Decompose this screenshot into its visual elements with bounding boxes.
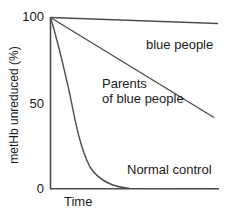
y-axis-label: metHb unreduced (%) [8,20,20,190]
x-axis-label: Time [64,195,92,208]
series-label-parents-line1: Parents [102,76,184,91]
series-label-blue-people: blue people [146,37,213,52]
series-line-blue-people [51,18,219,24]
series-label-normal-control: Normal control [127,162,212,177]
chart-figure: 100 50 0 metHb unreduced (%) Time blue p… [0,0,225,216]
series-label-parents-line2: of blue people [102,91,184,106]
series-label-parents-of-blue-people: Parents of blue people [102,76,184,106]
